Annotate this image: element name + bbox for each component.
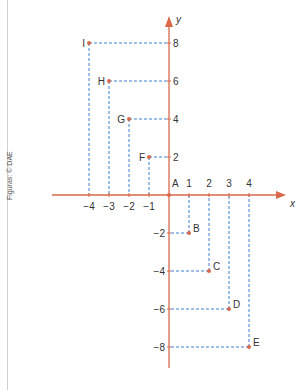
- point-h: [107, 79, 111, 83]
- x-tick-label: 3: [226, 178, 232, 189]
- y-tick-label: −4: [154, 266, 166, 277]
- point-a: [167, 193, 171, 197]
- coordinate-plane: xy−4−3−2−11234−8−6−4−22468ABCDEFGHI: [0, 0, 308, 390]
- x-axis-label: x: [289, 198, 296, 209]
- point-label-b: B: [193, 223, 200, 234]
- point-g: [127, 117, 131, 121]
- x-tick-label: 2: [206, 178, 212, 189]
- y-axis-arrow-icon: [165, 16, 173, 27]
- y-tick-label: −6: [154, 304, 166, 315]
- x-axis-arrow-icon: [276, 191, 286, 199]
- point-i: [87, 41, 91, 45]
- point-label-g: G: [117, 114, 125, 125]
- x-tick-label: −4: [83, 201, 95, 212]
- x-tick-label: −3: [103, 201, 115, 212]
- point-b: [187, 231, 191, 235]
- point-c: [207, 269, 211, 273]
- y-axis-label: y: [175, 14, 182, 25]
- y-tick-label: 2: [173, 152, 179, 163]
- point-label-f: F: [139, 152, 145, 163]
- x-tick-label: 4: [246, 178, 252, 189]
- y-tick-label: −8: [154, 342, 166, 353]
- point-label-d: D: [233, 299, 240, 310]
- y-tick-label: −2: [154, 228, 166, 239]
- point-e: [247, 345, 251, 349]
- point-label-e: E: [253, 337, 260, 348]
- point-d: [227, 307, 231, 311]
- y-tick-label: 4: [173, 114, 179, 125]
- point-label-a: A: [172, 178, 179, 189]
- point-f: [147, 155, 151, 159]
- point-label-h: H: [98, 76, 105, 87]
- point-label-i: I: [82, 38, 85, 49]
- x-tick-label: 1: [186, 178, 192, 189]
- x-tick-label: −2: [123, 201, 135, 212]
- y-tick-label: 6: [173, 76, 179, 87]
- y-tick-label: 8: [173, 38, 179, 49]
- point-label-c: C: [213, 261, 220, 272]
- x-tick-label: −1: [143, 201, 155, 212]
